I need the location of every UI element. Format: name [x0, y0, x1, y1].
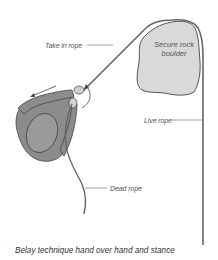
take-in-rope-label: Take in rope	[45, 42, 82, 49]
belay-technique-figure: Secure rock boulder Take in rope Live ro…	[0, 0, 218, 260]
lower-hand	[69, 98, 77, 108]
upper-hand	[74, 86, 84, 94]
illustration	[0, 0, 218, 260]
figure-caption: Belay technique hand over hand and stanc…	[15, 247, 175, 255]
arrow-pull-head-icon	[30, 93, 35, 97]
boulder-label-line2: boulder	[152, 50, 196, 59]
dead-rope-label: Dead rope	[110, 185, 142, 192]
boulder-label: Secure rock boulder	[152, 41, 196, 58]
live-rope-label: Live rope	[144, 117, 172, 124]
